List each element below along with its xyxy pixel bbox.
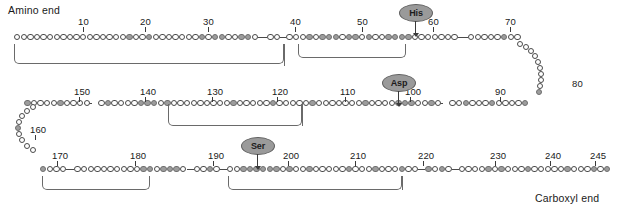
- residue-138: [158, 100, 164, 106]
- residue-186: [194, 166, 200, 172]
- residue-178: [134, 166, 140, 172]
- residue-154: [44, 100, 50, 106]
- residue-214: [385, 166, 391, 172]
- bracket-connector-3: [402, 176, 403, 190]
- residue-25: [172, 34, 178, 40]
- residue-212: [372, 166, 378, 172]
- arrow-head-ser: [255, 166, 261, 170]
- residue-168: [60, 166, 66, 172]
- residue-241: [578, 166, 584, 172]
- residue-36: [245, 34, 251, 40]
- residue-150: [70, 100, 76, 106]
- residue-245: [604, 166, 610, 172]
- residue-169: [74, 166, 80, 172]
- residue-149: [77, 100, 83, 106]
- tick-mark-170: [57, 161, 58, 166]
- residue-216: [399, 166, 405, 172]
- residue-21: [146, 34, 152, 40]
- residue-52: [366, 34, 372, 40]
- residue-229: [498, 166, 504, 172]
- residue-176: [121, 166, 127, 172]
- residue-172: [94, 166, 100, 172]
- chain-linker: [220, 169, 227, 170]
- residue-28: [192, 34, 198, 40]
- position-label-150: 150: [74, 86, 90, 97]
- residue-87: [502, 100, 508, 106]
- residue-148: [84, 100, 90, 106]
- residue-62: [432, 34, 438, 40]
- residue-61: [425, 34, 431, 40]
- residue-33: [225, 34, 231, 40]
- residue-23: [159, 34, 165, 40]
- residue-9: [67, 34, 73, 40]
- residue-208: [346, 166, 352, 172]
- residue-3: [27, 34, 33, 40]
- position-label-200: 200: [283, 150, 299, 161]
- residue-108: [356, 100, 362, 106]
- tick-mark-240: [550, 161, 551, 166]
- tick-mark-60: [433, 27, 434, 32]
- position-label-30: 30: [203, 16, 214, 27]
- bridge-191-220: [228, 176, 402, 190]
- residue-84: [522, 100, 528, 106]
- bridge-168-182: [42, 176, 150, 190]
- residue-196: [267, 166, 273, 172]
- residue-177: [127, 166, 133, 172]
- residue-105: [375, 100, 381, 106]
- residue-171: [88, 166, 94, 172]
- residue-8: [60, 34, 66, 40]
- bracket-connector-1: [284, 44, 285, 66]
- chain-linker: [66, 169, 74, 170]
- residue-107: [362, 100, 368, 106]
- chain-linker: [452, 169, 459, 170]
- residue-189: [213, 166, 219, 172]
- residue-232: [518, 166, 524, 172]
- residue-230: [505, 166, 511, 172]
- position-label-20: 20: [140, 16, 151, 27]
- residue-227: [485, 166, 491, 172]
- position-label-210: 210: [350, 150, 366, 161]
- residue-7: [54, 34, 60, 40]
- position-label-80: 80: [572, 78, 583, 89]
- residue-220: [432, 166, 438, 172]
- bridge-136-201: [168, 104, 302, 126]
- residue-58: [405, 34, 411, 40]
- residue-64: [445, 34, 451, 40]
- residue-184: [173, 166, 179, 172]
- residue-166: [30, 147, 36, 153]
- residue-99: [415, 100, 421, 106]
- arrow-stem-ser: [257, 154, 258, 166]
- residue-67: [475, 34, 481, 40]
- position-label-10: 10: [78, 16, 89, 27]
- residue-30: [205, 34, 211, 40]
- residue-175: [114, 166, 120, 172]
- tick-mark-230: [495, 161, 496, 166]
- residue-60: [418, 34, 424, 40]
- catalytic-label-ser: Ser: [241, 137, 275, 155]
- residue-201: [300, 166, 306, 172]
- residue-89: [489, 100, 495, 106]
- residue-170: [81, 166, 87, 172]
- residue-152: [57, 100, 63, 106]
- tick-mark-180: [135, 161, 136, 166]
- position-label-130: 130: [207, 86, 223, 97]
- residue-31: [212, 34, 218, 40]
- residue-1: [14, 34, 20, 40]
- residue-72: [508, 34, 514, 40]
- residue-224: [465, 166, 471, 172]
- residue-16: [113, 34, 119, 40]
- residue-144: [118, 100, 124, 106]
- residue-51: [359, 34, 365, 40]
- residue-53: [372, 34, 378, 40]
- residue-12: [87, 34, 93, 40]
- residue-85: [515, 100, 521, 106]
- residue-29: [199, 34, 205, 40]
- residue-164: [19, 137, 25, 143]
- tick-mark-100: [410, 97, 411, 102]
- residue-167: [53, 166, 59, 172]
- residue-18: [126, 34, 132, 40]
- residue-200: [293, 166, 299, 172]
- tick-mark-190: [213, 161, 214, 166]
- residue-44: [313, 34, 319, 40]
- position-label-170: 170: [52, 150, 68, 161]
